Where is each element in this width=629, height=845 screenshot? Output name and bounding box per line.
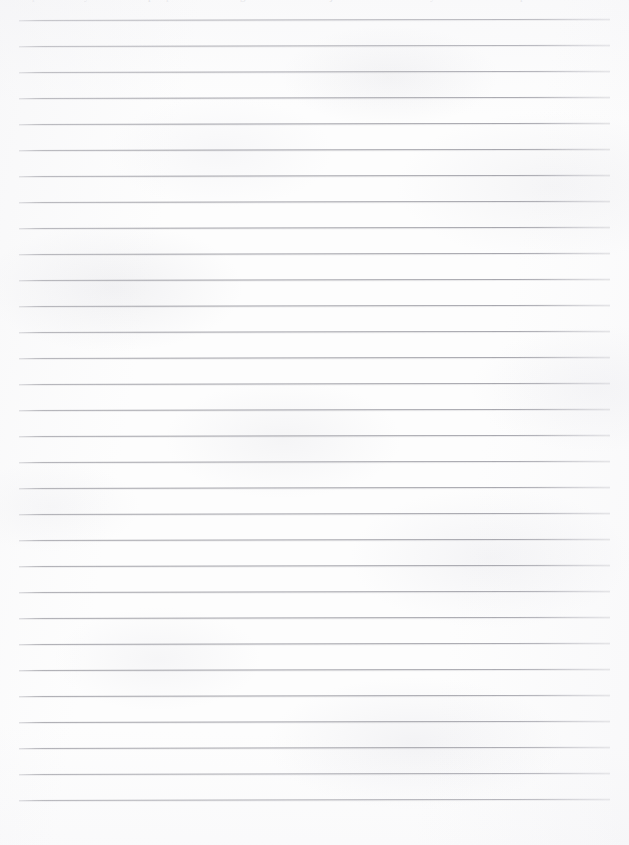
rule-line-2 — [19, 45, 610, 47]
rule-line-4 — [19, 97, 610, 99]
rule-line-6 — [19, 149, 610, 151]
rule-line-15 — [19, 383, 610, 385]
rule-line-7 — [19, 175, 610, 177]
rule-line-31 — [19, 799, 610, 801]
rule-line-19 — [19, 487, 610, 489]
rule-line-27 — [19, 695, 610, 697]
rule-line-16 — [19, 409, 610, 411]
rule-line-28 — [19, 721, 610, 723]
rule-line-12 — [19, 305, 610, 307]
rule-line-5 — [19, 123, 610, 125]
rule-line-18 — [19, 461, 610, 463]
rule-line-10 — [19, 253, 610, 255]
rule-line-24 — [19, 617, 610, 619]
rule-line-30 — [19, 773, 610, 775]
rule-line-3 — [19, 71, 610, 73]
rule-line-29 — [19, 747, 610, 749]
scanned-page: pyppgjyp — [0, 0, 629, 845]
rule-line-20 — [19, 513, 610, 515]
rule-line-1 — [19, 19, 610, 21]
rule-line-23 — [19, 591, 610, 593]
rule-line-22 — [19, 565, 610, 567]
rule-line-8 — [19, 201, 610, 203]
rule-line-13 — [19, 331, 610, 333]
ruled-lines-group — [0, 0, 629, 845]
rule-line-9 — [19, 227, 610, 229]
rule-line-11 — [19, 279, 610, 281]
rule-line-17 — [19, 435, 610, 437]
rule-line-14 — [19, 357, 610, 359]
rule-line-26 — [19, 669, 610, 671]
rule-line-25 — [19, 643, 610, 645]
rule-line-21 — [19, 539, 610, 541]
